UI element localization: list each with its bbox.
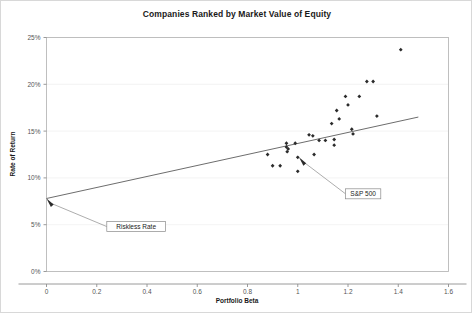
data-point bbox=[371, 80, 375, 84]
trendline bbox=[47, 117, 419, 198]
x-tick-label: 0.6 bbox=[193, 288, 202, 295]
y-tick-label: 5% bbox=[31, 221, 41, 228]
annotation-arrowhead bbox=[299, 157, 306, 165]
x-tick-label: 0.4 bbox=[142, 288, 151, 295]
data-point bbox=[332, 138, 336, 142]
data-point bbox=[307, 133, 311, 137]
data-point bbox=[266, 153, 270, 157]
chart-container: Companies Ranked by Market Value of Equi… bbox=[0, 0, 472, 313]
x-axis-title: Portfolio Beta bbox=[216, 297, 259, 304]
data-point bbox=[285, 141, 289, 145]
data-point bbox=[365, 80, 369, 84]
x-tick-label: 0 bbox=[45, 288, 49, 295]
data-point bbox=[330, 122, 334, 126]
data-point bbox=[335, 109, 339, 113]
data-point bbox=[399, 48, 403, 52]
annotation-label-riskless-rate: Riskless Rate bbox=[116, 223, 156, 230]
data-point bbox=[323, 139, 327, 143]
y-axis-ticks: 0%5%10%15%20%25% bbox=[27, 34, 46, 275]
data-point bbox=[351, 132, 355, 136]
annotation-label-sp500: S&P 500 bbox=[350, 190, 376, 197]
x-axis-ticks: 00.20.40.60.811.21.41.6 bbox=[19, 284, 467, 295]
data-point bbox=[344, 95, 348, 99]
data-point bbox=[350, 127, 354, 131]
annotation-arrowhead bbox=[47, 198, 54, 206]
data-point bbox=[375, 114, 379, 118]
annotation-leader-line bbox=[52, 203, 107, 226]
x-tick-label: 0.2 bbox=[92, 288, 101, 295]
data-point bbox=[357, 95, 361, 99]
gridlines-group bbox=[47, 38, 449, 225]
data-points-group bbox=[266, 48, 403, 173]
data-point bbox=[332, 143, 336, 147]
x-tick-label: 1.4 bbox=[394, 288, 403, 295]
security-market-line bbox=[47, 117, 419, 198]
annotations-group: S&P 500Riskless Rate bbox=[47, 157, 381, 231]
data-point bbox=[278, 164, 282, 168]
data-point bbox=[271, 164, 275, 168]
data-point bbox=[337, 117, 341, 121]
data-point bbox=[346, 103, 350, 107]
y-tick-label: 20% bbox=[27, 81, 40, 88]
x-tick-label: 0.8 bbox=[243, 288, 252, 295]
scatter-plot: 0%5%10%15%20%25% 00.20.40.60.811.21.41.6… bbox=[1, 1, 472, 313]
data-point bbox=[311, 134, 315, 138]
y-tick-label: 10% bbox=[27, 174, 40, 181]
y-axis-title: Rate of Return bbox=[9, 132, 16, 177]
data-point bbox=[312, 153, 316, 157]
y-tick-label: 25% bbox=[27, 34, 40, 41]
y-tick-label: 0% bbox=[31, 268, 41, 275]
data-point bbox=[296, 169, 300, 173]
x-tick-label: 1.6 bbox=[444, 288, 453, 295]
x-tick-label: 1 bbox=[296, 288, 300, 295]
y-tick-label: 15% bbox=[27, 128, 40, 135]
x-tick-label: 1.2 bbox=[343, 288, 352, 295]
data-point bbox=[296, 155, 300, 159]
